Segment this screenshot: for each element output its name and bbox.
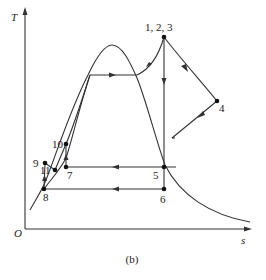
- label-9: 9: [33, 157, 39, 169]
- t-axis-label: T: [11, 11, 18, 23]
- arrow-up-icon: [64, 154, 69, 160]
- arrow-down-icon: [162, 78, 167, 85]
- arrow-left-icon: [112, 165, 119, 170]
- process-123-4: [164, 37, 217, 101]
- process-4-5: [172, 101, 217, 138]
- t-s-diagram: T s O: [0, 0, 266, 280]
- arrow-left-icon: [112, 187, 119, 192]
- point-5: [162, 165, 167, 170]
- saturation-dome: [30, 45, 250, 222]
- point-labels: 1, 2, 3 4 5 6 7 8 9 10 11: [33, 21, 225, 205]
- point-6: [162, 187, 167, 192]
- axes: T s O: [11, 7, 252, 246]
- label-4: 4: [219, 102, 225, 114]
- s-axis-arrow-icon: [244, 227, 252, 232]
- t-axis-arrow-icon: [23, 7, 28, 15]
- s-axis-label: s: [241, 234, 245, 246]
- origin-label: O: [14, 227, 22, 239]
- point-11: [53, 168, 58, 173]
- point-10: [64, 142, 69, 147]
- superheat-curve: [137, 37, 164, 75]
- point-1-2-3: [162, 35, 167, 40]
- label-8: 8: [43, 191, 49, 203]
- state-points: [42, 35, 220, 192]
- label-11: 11: [40, 164, 51, 176]
- label-1-2-3: 1, 2, 3: [145, 21, 173, 33]
- figure-caption: (b): [126, 253, 139, 266]
- label-6: 6: [160, 193, 166, 205]
- label-5: 5: [153, 169, 159, 181]
- arrow-right-icon: [109, 73, 116, 78]
- label-10: 10: [52, 138, 64, 150]
- label-7: 7: [67, 169, 73, 181]
